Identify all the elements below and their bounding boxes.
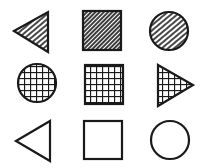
empty-circle	[151, 121, 189, 159]
row-3	[16, 121, 189, 161]
shape-grid-figure	[0, 0, 206, 168]
hatched-left-triangle	[14, 12, 48, 52]
grid-right-triangle	[158, 65, 193, 106]
grid-circle	[18, 64, 56, 102]
hatched-circle	[150, 12, 188, 50]
row-1	[14, 11, 188, 52]
row-2	[18, 64, 193, 106]
hatched-square	[83, 11, 121, 50]
empty-square	[84, 121, 122, 159]
grid-square	[85, 65, 123, 104]
empty-left-triangle	[16, 121, 50, 161]
